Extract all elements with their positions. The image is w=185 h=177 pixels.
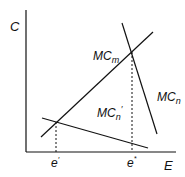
mc-n-label: MCn (157, 90, 181, 106)
e-prime-tick-label: e′ (51, 155, 60, 170)
mc-m-label: MCm (93, 49, 120, 65)
mc-m-line (41, 32, 153, 137)
mc-n-line (122, 23, 157, 134)
y-axis-label: C (10, 19, 20, 34)
mc-n-prime-label: MCn′ (97, 104, 123, 122)
e-star-tick-label: e* (127, 155, 137, 170)
cost-curve-diagram: C E MCm MCn MCn′ e′ e* (0, 0, 185, 177)
x-axis-label: E (164, 158, 173, 173)
